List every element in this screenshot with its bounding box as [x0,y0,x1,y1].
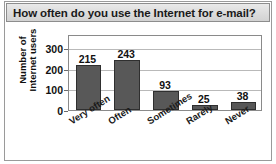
y-axis-tick-mark [64,70,68,71]
y-axis-tick-labels: 0100200300 [38,0,63,164]
bar-value-label: 93 [159,79,171,91]
y-axis-tick-label: 200 [38,64,63,76]
bar-value-label: 215 [79,53,97,65]
y-axis-tick-label: 100 [38,84,63,96]
y-axis-tick-mark [64,111,68,112]
gridline [69,49,261,50]
y-axis-tick-label: 0 [38,105,63,117]
bar-value-label: 38 [237,90,249,102]
chart-figure: How often do you use the Internet for e-… [0,0,276,164]
bar-value-label: 243 [117,48,135,60]
y-axis-tick-mark [64,49,68,50]
y-axis-tick-label: 300 [38,43,63,55]
bar [114,60,140,110]
y-axis-tick-mark [64,90,68,91]
